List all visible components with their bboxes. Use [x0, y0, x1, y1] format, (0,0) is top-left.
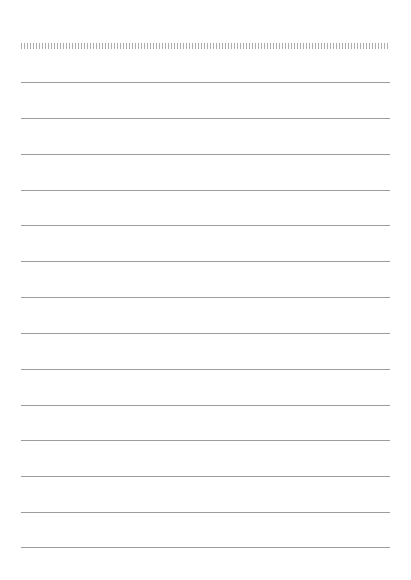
- ruled-line: [21, 512, 390, 513]
- ruled-line: [21, 261, 390, 262]
- ruled-line: [21, 476, 390, 477]
- perforation-strip: [21, 43, 390, 49]
- ruled-line: [21, 547, 390, 548]
- ruled-line: [21, 440, 390, 441]
- ruled-line: [21, 225, 390, 226]
- ruled-line: [21, 405, 390, 406]
- ruled-line: [21, 190, 390, 191]
- ruled-line: [21, 154, 390, 155]
- ruled-line: [21, 369, 390, 370]
- ruled-line: [21, 297, 390, 298]
- ruled-line: [21, 333, 390, 334]
- ruled-line: [21, 82, 390, 83]
- ruled-line: [21, 118, 390, 119]
